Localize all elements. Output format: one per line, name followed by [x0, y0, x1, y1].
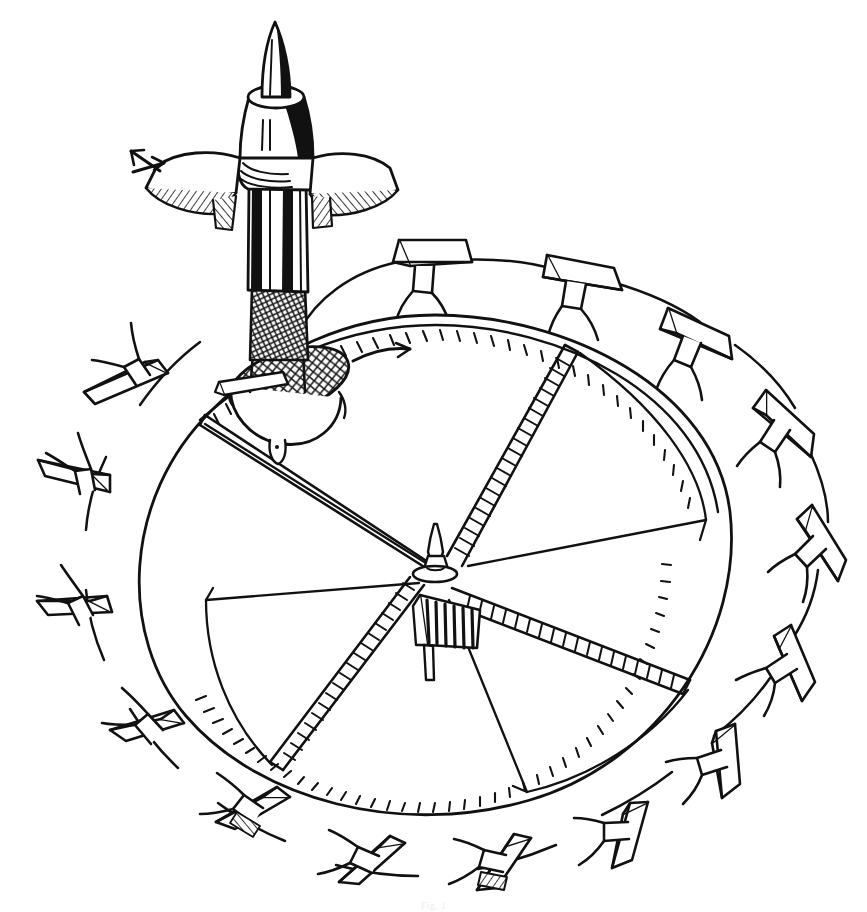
horizontal-water-wheel-illustration	[0, 0, 867, 912]
caption-bottom: Fig. 1	[0, 899, 867, 912]
figure-page: peritrochium	[0, 0, 867, 912]
shaft-collar	[238, 156, 316, 190]
